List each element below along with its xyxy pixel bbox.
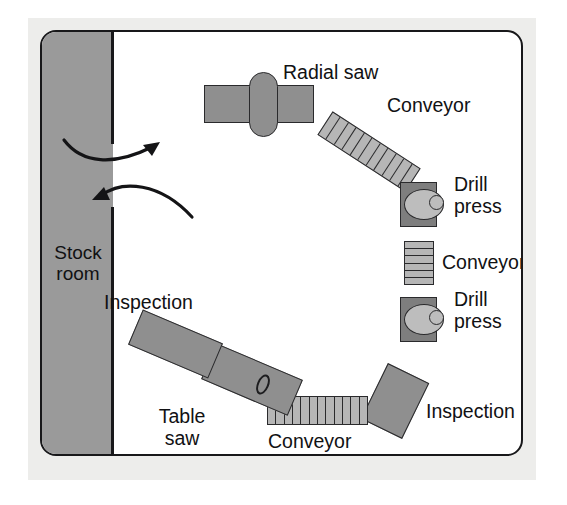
arrow-into-stock-room-path (102, 186, 192, 217)
table-saw-label-line1: Table (159, 405, 206, 427)
drill-press-lower-spindle (429, 310, 444, 325)
floor-plan-figure: Stockroom Radial saw Conveyor Drillp (0, 0, 567, 505)
drill-press-upper-label: Drillpress (454, 173, 502, 217)
stock-room-label-line1: Stock (54, 242, 102, 263)
inspection-right-label: Inspection (426, 400, 515, 422)
inspection-station-right (361, 363, 430, 439)
conveyor-middle-label: Conveyor (442, 251, 523, 273)
drill-press-lower-label-line1: Drill (454, 288, 488, 310)
drill-press-lower-label-line2: press (454, 310, 502, 332)
plant-outline: Stockroom Radial saw Conveyor Drillp (40, 30, 523, 456)
inspection-left-label: Inspection (104, 291, 193, 313)
radial-saw-label: Radial saw (283, 61, 378, 83)
stock-room-label: Stockroom (44, 242, 112, 284)
conveyor-bottom-label: Conveyor (268, 430, 351, 452)
drill-press-lower (400, 297, 448, 342)
radial-saw-arm (249, 72, 278, 137)
drill-press-lower-label: Drillpress (454, 288, 502, 332)
inspection-station-left (128, 310, 223, 379)
conveyor-middle-rungs (405, 242, 433, 284)
conveyor-middle-vertical (404, 241, 434, 285)
stock-room-label-line2: room (56, 263, 99, 284)
drill-press-upper-spindle (429, 195, 444, 210)
drill-press-upper-label-line1: Drill (454, 173, 488, 195)
conveyor-top-diagonal (317, 111, 420, 192)
table-saw-label-line2: saw (165, 427, 200, 449)
drill-press-upper (400, 182, 448, 227)
arrow-out-of-stock-room-head (143, 142, 160, 156)
conveyor-top-rungs (319, 113, 420, 191)
conveyor-top-label: Conveyor (387, 94, 470, 116)
drill-press-upper-label-line2: press (454, 195, 502, 217)
table-saw-label: Tablesaw (142, 405, 222, 449)
stock-room-wall-upper (111, 32, 114, 144)
